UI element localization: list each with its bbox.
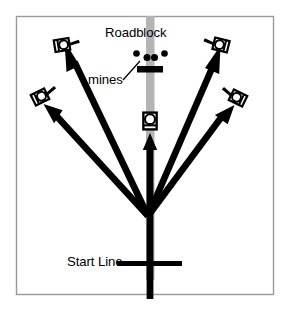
mines-label: mines <box>88 73 123 86</box>
course-diagram <box>0 0 289 311</box>
figure-canvas: Roadblock mines Start Line <box>0 0 289 311</box>
robot-upper-right <box>202 35 230 53</box>
robot-lower-left <box>31 84 59 106</box>
route-arrow-to-lower-left <box>44 104 149 216</box>
robot-upper-left <box>54 36 81 52</box>
route-arrow-to-upper-left <box>65 41 149 216</box>
mine-left-outer <box>133 50 140 57</box>
robot-lower-right <box>219 85 247 107</box>
mine-center-left <box>144 54 151 61</box>
roadblock-label: Roadblock <box>105 26 166 39</box>
roadblock-bar <box>137 66 163 73</box>
mine-center-right <box>151 54 158 61</box>
start-line-label: Start Line <box>67 255 122 268</box>
mine-right-outer <box>161 50 168 57</box>
robot-on-road <box>143 113 156 130</box>
